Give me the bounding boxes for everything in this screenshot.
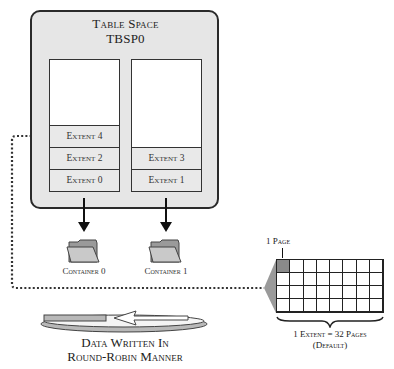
page-cell-highlighted: [277, 260, 290, 273]
page-cell: [370, 273, 383, 286]
page-cell: [304, 286, 317, 299]
extent-4: Extent 4: [50, 125, 119, 147]
page-label: 1 Page: [266, 236, 290, 246]
folder-icon: [66, 238, 102, 264]
tablespace-name: TBSP0: [30, 31, 221, 46]
page-cell: [317, 299, 330, 312]
page-cell: [357, 286, 370, 299]
extent-default-label: (Default): [270, 340, 390, 350]
callout-wedge-grid: [264, 260, 276, 313]
page-cell: [330, 273, 343, 286]
page-cell: [277, 299, 290, 312]
page-cell: [317, 286, 330, 299]
extent-page-grid: [276, 259, 384, 313]
page-cell: [330, 260, 343, 273]
page-cell: [330, 286, 343, 299]
page-cell: [370, 260, 383, 273]
page-cell: [370, 286, 383, 299]
round-robin-caption-line1: Data Written In: [20, 336, 230, 350]
page-cell: [290, 273, 303, 286]
container-1-label: Container 1: [126, 266, 206, 276]
figure-caption-cutoff: [70, 361, 370, 369]
extent-size-label: 1 Extent = 32 Pages: [270, 329, 390, 339]
page-cell: [317, 273, 330, 286]
arrow-down-icon: [160, 222, 172, 232]
extent-0: Extent 0: [50, 169, 119, 191]
page-cell: [343, 286, 356, 299]
page-cell: [290, 260, 303, 273]
page-cell: [343, 273, 356, 286]
page-cell: [290, 286, 303, 299]
extent-3: Extent 3: [132, 147, 201, 169]
page-pointer-line: [282, 248, 283, 258]
extent-2: Extent 2: [50, 147, 119, 169]
page-cell: [317, 260, 330, 273]
page-cell: [290, 299, 303, 312]
page-cell: [343, 260, 356, 273]
page-cell: [277, 286, 290, 299]
arrow-down-icon: [78, 222, 90, 232]
page-cell: [277, 273, 290, 286]
container-0-column: Extent 4 Extent 2 Extent 0: [49, 59, 120, 192]
tablespace-title: Table Space TBSP0: [30, 16, 221, 46]
arrow-line-container-0: [83, 198, 85, 224]
extent-1: Extent 1: [132, 169, 201, 191]
page-cell: [370, 299, 383, 312]
page-cell: [304, 260, 317, 273]
page-cell: [357, 260, 370, 273]
tablespace-title-line1: Table Space: [30, 16, 221, 31]
container-0-label: Container 0: [44, 266, 124, 276]
arrow-line-container-1: [165, 198, 167, 224]
page-cell: [304, 273, 317, 286]
page-cell: [343, 299, 356, 312]
folder-icon: [148, 238, 184, 264]
page-cell: [330, 299, 343, 312]
page-cell: [357, 299, 370, 312]
curly-brace-icon: [276, 316, 384, 328]
container-1-column: Extent 3 Extent 1: [131, 59, 202, 192]
page-cell: [304, 299, 317, 312]
round-robin-cycle-icon: [38, 309, 210, 335]
page-cell: [357, 273, 370, 286]
